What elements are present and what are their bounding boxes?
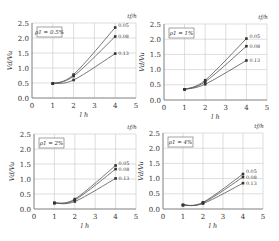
data-marker — [245, 45, 248, 48]
y-tick-label: 0.5 — [20, 191, 31, 199]
y-tick-label: 2.0 — [149, 145, 160, 153]
y-tick-label: 0.0 — [18, 95, 29, 103]
legend-title: tf/h — [127, 124, 137, 131]
x-tick-label: 2 — [203, 104, 207, 112]
x-tick-label: 5 — [134, 102, 138, 110]
x-tick-label: 5 — [265, 104, 269, 112]
x-tick-label: 4 — [241, 213, 246, 221]
y-axis-label: Vd/Vu — [6, 51, 14, 71]
y-tick-label: 0.0 — [149, 206, 160, 214]
x-tick-label: 0 — [161, 213, 165, 221]
data-marker — [242, 182, 245, 185]
x-tick-label: 0 — [32, 213, 36, 221]
series-line-0.08 — [183, 177, 243, 206]
y-tick-label: 2.0 — [150, 36, 161, 44]
y-tick-label: 1.0 — [20, 176, 31, 184]
annotation-text: ρ1 = 2% — [39, 140, 64, 147]
y-tick-label: 1.5 — [149, 160, 160, 168]
series-line-0.13 — [183, 183, 243, 205]
y-tick-label: 1.0 — [18, 65, 29, 73]
series-label: 0.13 — [246, 181, 257, 186]
data-marker — [74, 200, 77, 203]
series-line-0.08 — [54, 169, 115, 203]
x-tick-label: 1 — [181, 213, 185, 221]
data-marker — [114, 164, 117, 167]
y-tick-label: 1.0 — [149, 175, 160, 183]
data-marker — [202, 202, 205, 205]
y-tick-label: 1.5 — [150, 51, 161, 59]
chart-canvas: 0.00.51.01.52.02.5012345l hVd/Vutf/hρ1 =… — [0, 0, 279, 241]
x-axis-label: l h — [80, 111, 88, 119]
y-tick-label: 0.5 — [150, 81, 161, 89]
x-tick-label: 3 — [221, 213, 225, 221]
x-axis-label: l h — [209, 222, 217, 230]
y-tick-label: 2.0 — [18, 35, 29, 43]
x-tick-label: 1 — [182, 104, 186, 112]
x-tick-label: 4 — [244, 104, 249, 112]
data-marker — [183, 88, 186, 91]
series-label: 0.13 — [118, 51, 129, 56]
data-marker — [204, 80, 207, 83]
y-axis-label: Vd/Vu — [137, 161, 145, 181]
legend-title: tf/h — [127, 13, 137, 20]
x-tick-label: 1 — [51, 102, 55, 110]
data-marker — [72, 79, 75, 82]
data-marker — [114, 168, 117, 171]
series-label: 0.08 — [246, 175, 257, 180]
x-tick-label: 3 — [224, 104, 228, 112]
series-line-0.08 — [185, 46, 247, 89]
y-axis-label: Vd/Vu — [8, 162, 16, 182]
subplot-1: 0.00.51.01.52.02.5012345l hVd/Vutf/hρ1 =… — [6, 13, 138, 119]
data-marker — [52, 82, 55, 85]
data-marker — [114, 35, 117, 38]
figure: 0.00.51.01.52.02.5012345l hVd/Vutf/hρ1 =… — [0, 0, 279, 241]
annotation-text: ρ1 = 0.5% — [34, 29, 64, 36]
y-tick-label: 2.5 — [150, 21, 161, 29]
x-axis-label: l h — [81, 222, 89, 230]
data-marker — [242, 176, 245, 179]
annotation-text: ρ1 = 1% — [169, 30, 194, 37]
y-tick-label: 0.0 — [150, 97, 161, 105]
data-marker — [245, 59, 248, 62]
x-tick-label: 2 — [201, 213, 205, 221]
subplot-3: 0.00.51.01.52.02.5012345l hVd/Vutf/hρ1 =… — [8, 124, 138, 230]
data-marker — [114, 26, 117, 29]
x-tick-label: 2 — [71, 102, 75, 110]
x-tick-label: 3 — [93, 213, 97, 221]
data-marker — [53, 202, 56, 205]
series-label: 0.13 — [119, 176, 130, 181]
x-tick-label: 1 — [52, 213, 56, 221]
subplot-4: 0.00.51.01.52.02.5012345l hVd/Vutf/hρ1 =… — [137, 123, 265, 230]
x-axis-label: l h — [211, 113, 219, 121]
series-line-0.05 — [185, 39, 247, 90]
x-tick-label: 5 — [261, 213, 265, 221]
y-tick-label: 2.5 — [18, 20, 29, 28]
y-tick-label: 2.0 — [20, 146, 31, 154]
series-label: 0.13 — [249, 58, 260, 63]
data-marker — [114, 177, 117, 180]
series-label: 0.05 — [246, 169, 257, 174]
series-label: 0.05 — [249, 34, 260, 39]
y-tick-label: 0.0 — [20, 206, 31, 214]
data-marker — [72, 75, 75, 78]
subplot-2: 0.00.51.01.52.02.5012345l hVd/Vutf/hρ1 =… — [138, 14, 269, 121]
data-marker — [114, 52, 117, 55]
series-label: 0.05 — [119, 161, 130, 166]
data-marker — [245, 37, 248, 40]
x-tick-label: 0 — [30, 102, 34, 110]
y-tick-label: 2.5 — [149, 130, 160, 138]
x-tick-label: 5 — [134, 213, 138, 221]
x-tick-label: 0 — [162, 104, 166, 112]
annotation-text: ρ1 = 4% — [168, 139, 193, 146]
series-label: 0.05 — [118, 23, 129, 28]
y-tick-label: 2.5 — [20, 131, 31, 139]
y-tick-label: 0.5 — [149, 190, 160, 198]
y-tick-label: 1.0 — [150, 66, 161, 74]
series-label: 0.08 — [119, 167, 130, 172]
x-tick-label: 4 — [113, 102, 118, 110]
x-tick-label: 2 — [73, 213, 77, 221]
series-label: 0.08 — [249, 44, 260, 49]
y-axis-label: Vd/Vu — [138, 52, 146, 72]
legend-title: tf/h — [254, 123, 264, 130]
y-tick-label: 0.5 — [18, 80, 29, 88]
